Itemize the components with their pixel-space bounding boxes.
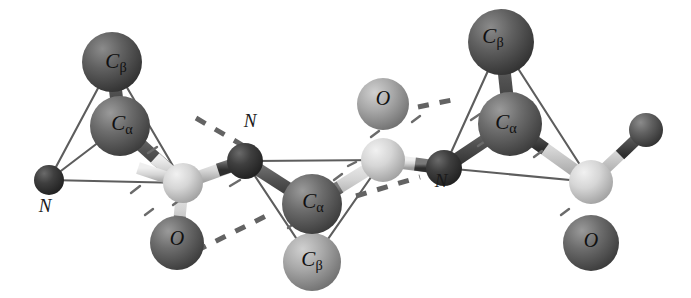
atom-c-mid: [361, 138, 405, 182]
tick-11: [561, 209, 569, 215]
hbond-2: [196, 213, 272, 251]
atom-ca-right: [478, 92, 542, 156]
atom-ca-left: [90, 96, 150, 156]
tick-14: [348, 162, 356, 166]
atom-x-right: [629, 113, 663, 147]
atom-n-left: [34, 165, 64, 195]
tick-4: [230, 180, 240, 186]
atom-cb-left: [82, 32, 142, 92]
atom-n-right: [426, 150, 462, 186]
atom-o-mid: [357, 78, 409, 130]
atom-cb-mid: [283, 233, 341, 291]
molecule-canvas: [0, 0, 691, 298]
hbond-3: [418, 100, 452, 107]
atom-c-right: [569, 160, 613, 204]
atom-spheres: [34, 9, 663, 291]
atom-ca-mid: [282, 174, 342, 234]
tick-2: [131, 186, 140, 193]
tick-12: [145, 209, 153, 215]
tick-13: [412, 116, 420, 122]
molecular-model-figure: Cβ Cα N O N Cα Cβ O N Cβ Cα O: [0, 0, 691, 298]
atom-c-left: [163, 163, 203, 203]
atom-n-mid: [227, 143, 263, 179]
atom-cb-right: [468, 9, 534, 75]
atom-o-left: [150, 216, 204, 270]
atom-o-right: [563, 215, 619, 271]
